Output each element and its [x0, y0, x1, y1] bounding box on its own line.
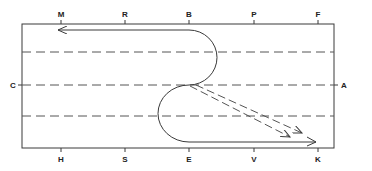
marker-B: B: [186, 10, 192, 19]
marker-V: V: [251, 155, 257, 164]
bottom-ticks: [61, 148, 318, 152]
solid-serpentine-track: [58, 30, 316, 142]
marker-M: M: [58, 10, 65, 19]
marker-E: E: [186, 155, 192, 164]
marker-K: K: [315, 155, 321, 164]
dashed-diagonal-2: [196, 85, 302, 133]
marker-S: S: [122, 155, 128, 164]
arena-diagram: M R B P F H S E V K C A: [0, 0, 372, 171]
dashed-diagonal-1: [190, 86, 290, 137]
marker-R: R: [122, 10, 128, 19]
arena-boundary: [22, 24, 334, 148]
marker-F: F: [316, 10, 321, 19]
marker-P: P: [251, 10, 257, 19]
marker-C: C: [10, 81, 16, 90]
marker-H: H: [58, 155, 64, 164]
top-ticks: [61, 20, 318, 24]
marker-A: A: [341, 81, 347, 90]
